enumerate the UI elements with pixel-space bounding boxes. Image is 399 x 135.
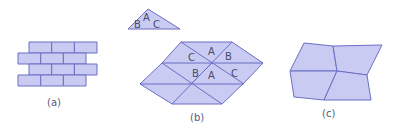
brick-tile [52,64,75,75]
caption-c: (c) [322,108,335,119]
brick-tile [41,53,64,64]
caption-b: (b) [190,112,204,123]
panel-a-brick-tessellation: (a) [18,42,97,108]
angle-label-a: A [143,12,150,23]
tile-label-a: A [208,46,215,57]
brick-tile [41,75,64,86]
tile-label-c: C [188,52,195,63]
reference-triangle: A B C [128,9,180,30]
brick-tile [63,53,86,64]
caption-a: (a) [47,97,61,108]
quadrilateral-tile [290,43,337,71]
brick-tile [18,53,41,64]
tile-label-c: C [231,68,238,79]
brick-tile [74,64,97,75]
brick-tile [63,75,86,86]
panel-c-quadrilateral-tessellation: (c) [290,43,382,119]
brick-tile [52,42,75,53]
brick-tile [18,75,41,86]
tile-label-b: B [225,51,232,62]
angle-label-c: C [153,19,160,30]
tile-label-b: B [192,68,199,79]
panel-b-triangle-tessellation: C A B B A C (b) [140,42,263,123]
brick-tile [29,42,52,53]
brick-tile [74,42,97,53]
brick-tile [29,64,52,75]
quadrilateral-tile [333,45,382,75]
tile-label-a: A [208,70,215,81]
angle-label-b: B [134,19,141,30]
tessellation-figure: (a) A B C C A B B A C (b) (c) [0,0,399,135]
